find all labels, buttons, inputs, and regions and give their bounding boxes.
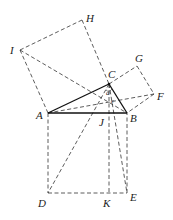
segment-GF (137, 66, 154, 94)
segment-CD (48, 84, 109, 193)
segment-AF (48, 94, 154, 113)
segment-HC (82, 20, 109, 84)
segment-IH (20, 20, 82, 50)
triangle-ABC (48, 84, 127, 113)
angle-mark-a: a (106, 89, 110, 97)
pythagorean-diagram: A B C D E F G H I J K a c (0, 0, 173, 220)
label-I: I (9, 44, 15, 56)
label-C: C (108, 68, 116, 80)
label-E: E (129, 191, 137, 203)
label-D: D (37, 197, 46, 209)
segment-AI (20, 50, 48, 113)
construction-lines (20, 20, 154, 193)
segment-CA (48, 84, 109, 113)
label-H: H (85, 12, 95, 24)
point-C-dot (108, 83, 111, 86)
segment-FB (127, 94, 154, 113)
label-B: B (130, 112, 137, 124)
label-G: G (135, 52, 143, 64)
label-F: F (156, 90, 164, 102)
label-J: J (99, 116, 105, 128)
label-K: K (102, 197, 111, 209)
label-A: A (35, 109, 43, 121)
